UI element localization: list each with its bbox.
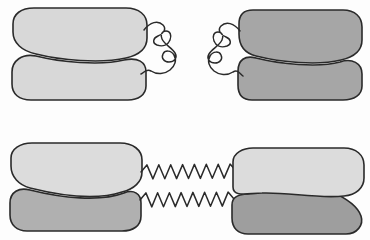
top-right-clamp[interactable] [238, 10, 362, 100]
bottom-left-clamp[interactable] [10, 143, 142, 231]
figure-root [0, 0, 370, 240]
bottom-right-clamp[interactable] [232, 148, 364, 234]
diagram-canvas [0, 0, 370, 240]
top-right-upper-lobe [239, 10, 362, 63]
top-left-upper-lobe [13, 8, 147, 61]
bottom-left-upper-lobe [11, 143, 142, 196]
bottom-right-upper-lobe [233, 148, 364, 197]
top-left-lower-lobe [12, 55, 146, 100]
